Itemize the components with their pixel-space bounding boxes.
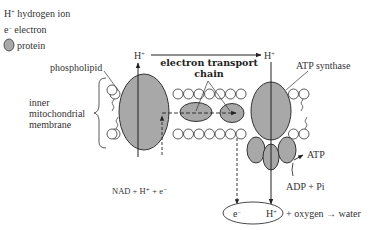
atp-synthase-subunit-left bbox=[247, 137, 265, 163]
label-membrane-line1: inner bbox=[29, 97, 50, 108]
label-oxygen-water: + oxygen → water bbox=[286, 208, 361, 219]
protein-complex-1 bbox=[119, 74, 169, 150]
label-etc-line1: electron transport bbox=[160, 57, 258, 68]
membrane-bracket bbox=[94, 78, 106, 148]
label-adp-pi: ADP + Pi bbox=[286, 181, 325, 192]
legend: H+ hydrogen ion e− electron protein bbox=[4, 8, 70, 51]
h-plus-top-left: H+ bbox=[134, 50, 145, 61]
legend-protein: protein bbox=[17, 40, 45, 51]
legend-electron: e− electron bbox=[4, 24, 47, 35]
label-atp: ATP bbox=[307, 149, 325, 160]
h-plus-top-right: H+ bbox=[264, 50, 275, 61]
label-nad: NAD + H⁺ + e⁻ bbox=[112, 186, 167, 196]
atp-synthase-pointer bbox=[286, 71, 308, 90]
label-membrane-line2: mitochondrial bbox=[29, 108, 85, 119]
label-phospholipid: phospholipid bbox=[50, 62, 102, 73]
label-etc-line2: chain bbox=[194, 68, 223, 79]
etc-protein-1 bbox=[180, 103, 212, 122]
electron-transport-diagram: H+ hydrogen ion e− electron protein H+ H… bbox=[0, 0, 375, 230]
label-membrane-line3: membrane bbox=[29, 119, 72, 130]
atp-synthase-subunit-right bbox=[278, 137, 296, 163]
protein-icon bbox=[4, 39, 14, 51]
label-atp-synthase: ATP synthase bbox=[296, 60, 351, 71]
legend-hydrogen-ion: H+ hydrogen ion bbox=[4, 8, 70, 19]
adp-curve bbox=[292, 163, 293, 176]
